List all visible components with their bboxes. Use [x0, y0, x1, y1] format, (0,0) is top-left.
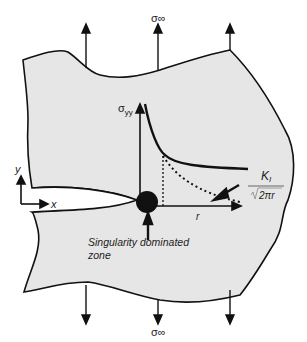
x-axis-label: x — [50, 198, 57, 210]
y-axis-label: y — [14, 163, 22, 175]
specimen-body — [23, 50, 294, 302]
ki-denominator: 2πr — [258, 190, 275, 201]
zone-label-line1: Singularity dominated — [88, 236, 190, 248]
zone-label-line2: zone — [87, 249, 111, 261]
sigma-infinity-top-label: σ∞ — [151, 12, 166, 24]
crack-diagram: σ∞ σ∞ σyy r KI 2πr Singularity dominated… — [0, 0, 307, 342]
sigma-infinity-bottom-label: σ∞ — [151, 326, 166, 338]
